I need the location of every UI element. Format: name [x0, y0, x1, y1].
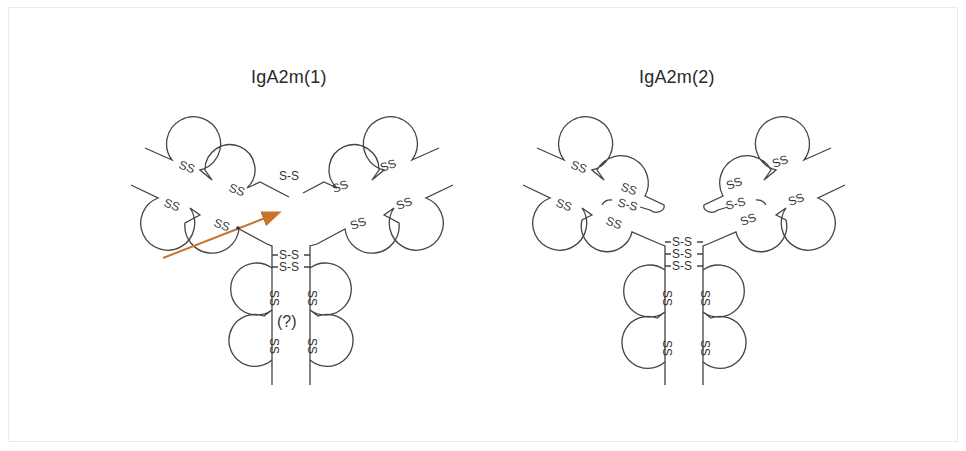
right-fab-upper-chain	[704, 117, 831, 212]
ss-label: SS	[660, 290, 674, 306]
ss-label: SS	[698, 340, 712, 356]
ss-label: SS	[348, 214, 368, 233]
ss-label: SS	[305, 290, 319, 306]
ss-label: SS	[227, 181, 247, 200]
hinge-ss-bond: S-S	[672, 259, 692, 273]
ss-label: SS	[305, 338, 319, 354]
left-fab-lower-chain	[131, 185, 272, 385]
igA2m-1-structure: SS SS SS SS SS SS SS SS S-S S-S S-S SS S…	[131, 117, 453, 385]
ss-label: SS	[569, 158, 589, 177]
igA2m-2-structure: SS SS SS SS SS SS SS SS S-S S-S S-S S-S …	[523, 117, 845, 385]
ss-label: SS	[724, 174, 744, 193]
fc-left-loops	[622, 265, 665, 368]
unknown-marker: (?)	[277, 313, 297, 330]
junction-dot	[236, 226, 240, 230]
right-fab-lower-chain	[310, 185, 453, 385]
left-fab-lower-chain	[523, 185, 665, 385]
right-fab-lower-chain	[703, 185, 845, 385]
ss-label: SS	[267, 338, 281, 354]
ss-label: SS	[330, 177, 350, 196]
ss-label: SS	[177, 158, 197, 177]
light-heavy-ss-bond: S-S	[616, 195, 639, 214]
fc-left-loops	[229, 263, 272, 366]
ss-label: SS	[786, 190, 806, 209]
ss-label: SS	[378, 156, 398, 175]
ss-label: SS	[770, 152, 790, 171]
ss-label: SS	[162, 196, 182, 215]
left-fab-upper-chain	[145, 117, 289, 197]
hinge-ss-bond: S-S	[279, 260, 299, 274]
interchain-ss-bond: S-S	[279, 169, 299, 183]
ss-label: SS	[604, 214, 624, 233]
ss-label: SS	[738, 210, 758, 229]
antibody-diagrams: SS SS SS SS SS SS SS SS S-S S-S S-S SS S…	[0, 0, 966, 451]
light-heavy-ss-bond: S-S	[724, 194, 747, 213]
right-fab-upper-chain	[303, 117, 439, 193]
ss-label: SS	[698, 290, 712, 306]
ss-label: SS	[554, 196, 574, 215]
ss-label: SS	[267, 290, 281, 306]
ss-label: SS	[660, 340, 674, 356]
left-fab-upper-chain	[537, 117, 664, 212]
ss-label: SS	[394, 194, 414, 213]
